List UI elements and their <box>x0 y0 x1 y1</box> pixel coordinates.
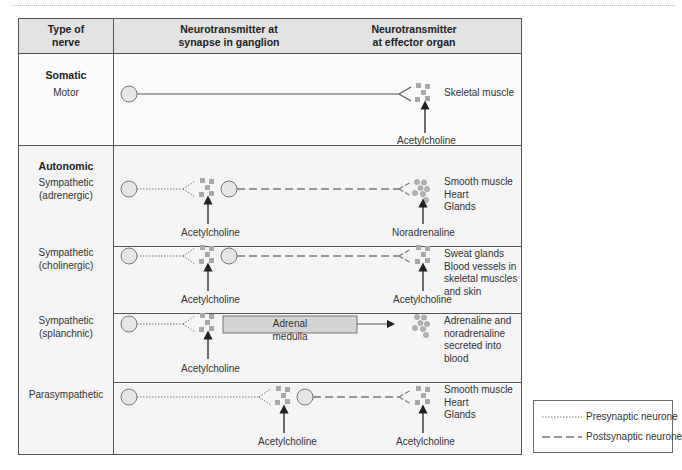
effector-transmitter-cholinergic: Acetylcholine <box>393 294 452 307</box>
ganglion-transmitter-adrenergic: Acetylcholine <box>181 227 240 240</box>
somatic-motor-pathway <box>121 83 430 133</box>
legend-presynaptic: Presynaptic neurone <box>586 411 678 422</box>
sympathetic-cholinergic-pathway <box>121 245 430 291</box>
parasympathetic-pathway <box>121 386 430 433</box>
ganglion-transmitter-splanchnic: Acetylcholine <box>181 363 240 376</box>
effector-transmitter-noradrenaline: Noradrenaline <box>392 227 455 240</box>
effector-transmitter-parasympathetic: Acetylcholine <box>396 436 455 449</box>
neurotransmitter-table: Type of nerve Neurotransmitter at synaps… <box>18 18 522 455</box>
legend-line-samples <box>534 401 674 454</box>
effector-transmitter-acetylcholine: Acetylcholine <box>397 135 456 148</box>
top-dotted-rule <box>12 5 675 6</box>
sympathetic-adrenergic-pathway <box>121 178 430 224</box>
effector-organs-parasympathetic: Smooth muscle Heart Glands <box>444 384 513 422</box>
effector-organs-adrenergic: Smooth muscle Heart Glands <box>444 176 513 214</box>
legend-postsynaptic: Postsynaptic neurone <box>586 431 682 442</box>
effector-organs-cholinergic: Sweat glands Blood vessels in skeletal m… <box>444 248 517 298</box>
effector-organs-splanchnic: Adrenaline and noradrenaline secreted in… <box>444 315 521 365</box>
ganglion-transmitter-parasympathetic: Acetylcholine <box>258 436 317 449</box>
adrenal-medulla-box-label: Adrenal medulla <box>255 318 325 343</box>
legend: Presynaptic neurone Postsynaptic neurone <box>533 400 673 453</box>
effector-organ-skeletal-muscle: Skeletal muscle <box>444 87 514 100</box>
ganglion-transmitter-cholinergic: Acetylcholine <box>181 294 240 307</box>
